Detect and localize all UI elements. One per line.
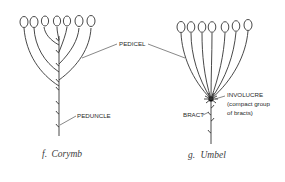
flower-icon — [208, 22, 216, 33]
pedicel-leader-line-right — [148, 44, 185, 58]
pedicel-label: PEDICEL — [119, 40, 146, 47]
flower-icon — [87, 16, 95, 27]
inflorescence-diagram: PEDUNCLE f. Corymb PEDICEL — [0, 0, 285, 182]
corymb-caption: f. Corymb — [42, 149, 82, 159]
peduncle-label: PEDUNCLE — [77, 112, 111, 119]
flower-icon — [63, 16, 70, 26]
flower-icon — [75, 16, 83, 27]
corymb-pedicels — [24, 27, 91, 86]
corymb-flowers — [20, 16, 95, 28]
umbel-caption-name: Umbel — [201, 150, 227, 160]
involucre-note-line1: (compact group — [227, 100, 271, 107]
involucre-note-line2: of bracts) — [227, 109, 253, 116]
corymb-caption-letter: f. — [42, 149, 47, 159]
flower-icon — [53, 16, 60, 26]
umbel-pedicels — [181, 31, 248, 99]
flower-icon — [244, 20, 252, 31]
pedicel-callout: PEDICEL — [82, 40, 185, 58]
umbel-caption: g. Umbel — [188, 150, 226, 160]
bract-label: BRACT — [183, 111, 204, 118]
flower-icon — [30, 17, 38, 28]
umbel-flowers — [177, 20, 252, 33]
involucre-label: INVOLUCRE — [227, 91, 263, 98]
flower-icon — [221, 22, 229, 33]
umbel-caption-letter: g. — [188, 150, 195, 160]
flower-icon — [20, 17, 28, 28]
peduncle-leader-line — [60, 116, 76, 125]
flower-icon — [177, 22, 185, 33]
flower-icon — [41, 16, 48, 26]
corymb-figure: PEDUNCLE f. Corymb — [20, 16, 111, 160]
flower-icon — [232, 21, 240, 32]
corymb-caption-name: Corymb — [51, 149, 82, 159]
flower-icon — [198, 22, 206, 33]
umbel-figure: INVOLUCRE (compact group of bracts) BRAC… — [177, 20, 271, 161]
flower-icon — [187, 22, 195, 33]
